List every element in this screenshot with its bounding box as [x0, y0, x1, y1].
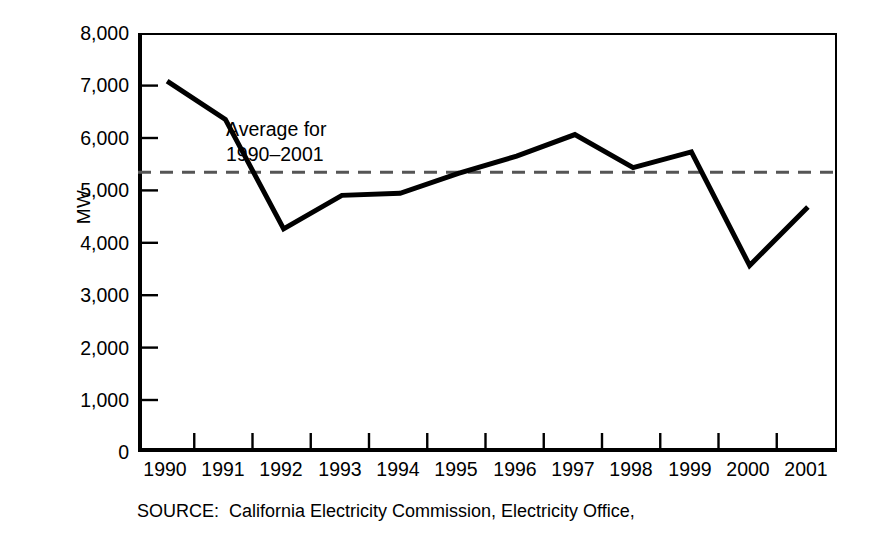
annotation-line-1: Average for: [226, 117, 326, 142]
y-tick-label-0: 0: [55, 442, 129, 462]
chart-plot-svg: [138, 33, 837, 452]
x-tick-label-1992: 1992: [252, 458, 310, 480]
y-tick-label-7000: 7,000: [55, 75, 129, 95]
x-tick-label-1996: 1996: [486, 458, 544, 480]
source-label: SOURCE:: [137, 501, 219, 521]
x-tick-label-1990: 1990: [136, 458, 194, 480]
y-tick-label-5000: 5,000: [55, 180, 129, 200]
y-tick-label-6000: 6,000: [55, 128, 129, 148]
y-tick-label-2000: 2,000: [55, 338, 129, 358]
average-annotation: Average for 1990–2001: [226, 117, 326, 167]
chart-figure: MW 8,000 7,000 6,000 5,000 4,000 3,000 2…: [0, 0, 876, 535]
source-text: California Electricity Commission, Elect…: [229, 501, 635, 521]
y-tick-label-3000: 3,000: [55, 285, 129, 305]
x-tick-label-1993: 1993: [311, 458, 369, 480]
x-tick-label-2000: 2000: [719, 458, 777, 480]
x-tick-label-1991: 1991: [194, 458, 252, 480]
x-tick-label-2001: 2001: [777, 458, 835, 480]
source-note: SOURCE: California Electricity Commissio…: [137, 501, 635, 522]
y-tick-label-8000: 8,000: [55, 23, 129, 43]
x-tick-label-1998: 1998: [602, 458, 660, 480]
x-tick-label-1994: 1994: [369, 458, 427, 480]
y-tick-label-4000: 4,000: [55, 233, 129, 253]
x-tick-label-1999: 1999: [661, 458, 719, 480]
y-tick-label-1000: 1,000: [55, 390, 129, 410]
annotation-line-2: 1990–2001: [226, 142, 326, 167]
x-tick-label-1995: 1995: [427, 458, 485, 480]
x-tick-label-1997: 1997: [544, 458, 602, 480]
